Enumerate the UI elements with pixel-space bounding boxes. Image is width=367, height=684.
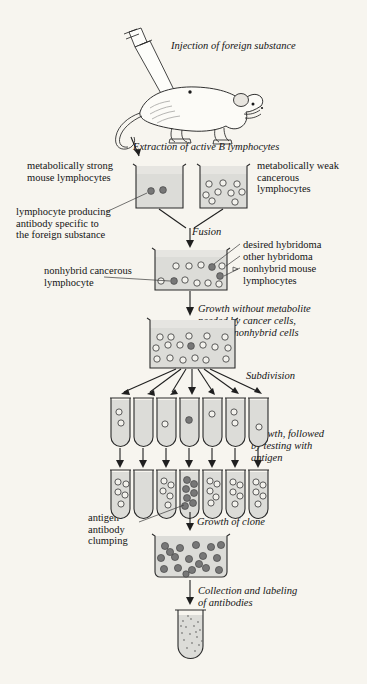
leader-other-hybridoma (226, 256, 240, 266)
test-tube (248, 470, 269, 519)
leader-desired-hybridoma (214, 244, 240, 264)
test-tube (179, 398, 200, 447)
arrow-row-testing (116, 448, 262, 468)
step-label-testing: Growth, followed by testing with antigen (251, 428, 324, 464)
test-tube (202, 470, 223, 519)
leader-nonhybrid-mouse-lymphocytes (224, 268, 240, 276)
beaker-clone-growth (152, 534, 230, 577)
annotation-other-hybridoma: other hybridoma (243, 251, 313, 263)
annotation-strong-mouse-lymphocytes: metabolically strong mouse lymphocytes (27, 160, 113, 183)
test-tube (179, 470, 200, 519)
test-tube (156, 470, 177, 519)
tube-row-subdivision (110, 398, 269, 447)
step-label-injection: Injection of foreign substance (171, 40, 296, 52)
tube-row-tested (110, 470, 269, 519)
test-tube (156, 398, 177, 447)
beaker-weak-cancerous (197, 164, 250, 208)
diagram-canvas: Injection of foreign substance Extractio… (0, 0, 367, 684)
annotation-desired-hybridoma: desired hybridoma (243, 239, 321, 251)
beaker-fusion-mixture (152, 248, 230, 290)
test-tube (133, 398, 154, 446)
beaker-strong-lymphocytes (133, 164, 186, 208)
leader-antigen-antibody-clumping (139, 505, 184, 522)
step-label-extraction: Extraction of active B lymphocytes (133, 141, 279, 153)
test-tube (202, 398, 223, 447)
test-tube (133, 470, 154, 518)
annotation-nonhybrid-cancerous-lymphocyte: nonhybrid cancerous lymphocyte (44, 265, 132, 288)
test-tube (110, 398, 131, 447)
annotation-nonhybrid-mouse-lymphocytes: nonhybrid mouse lymphocytes (243, 263, 316, 286)
annotation-antibody-producing-lymphocyte: lymphocyte producing antibody specific t… (16, 206, 111, 241)
test-tube (225, 398, 246, 447)
arrow-subdivision-fan (121, 369, 262, 396)
leader-antibody-producing-lymphocyte (106, 193, 147, 212)
step-label-collection: Collection and labeling of antibodies (198, 585, 297, 609)
arrow-collection (186, 580, 194, 605)
step-label-subdivision: Subdivision (246, 370, 295, 382)
annotation-antigen-antibody-clumping: antigen- antibody clumping (88, 512, 128, 547)
arrow-selection (186, 291, 194, 316)
step-label-selection: Growth without metabolite needed by canc… (198, 303, 311, 351)
arrow-clone-growth (186, 512, 194, 531)
step-label-clone-growth: Growth of clone (197, 516, 265, 528)
laboratory-mouse (116, 87, 264, 149)
tube-collected-antibodies (175, 610, 206, 659)
step-label-fusion: Fusion (192, 226, 221, 238)
test-tube (225, 470, 246, 519)
annotation-weak-cancerous-lymphocytes: metabolically weak cancerous lymphocytes (257, 160, 339, 195)
